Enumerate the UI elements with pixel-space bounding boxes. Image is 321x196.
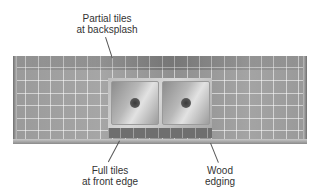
label-line: Partial tiles (72, 13, 142, 24)
front-edge-full-tile-row (108, 128, 212, 138)
backsplash-partial-tile-row (13, 56, 307, 70)
label-line: edging (200, 176, 240, 187)
wood-edging-strip (13, 139, 307, 144)
label-partial-tiles-backsplash: Partial tiles at backsplash (72, 13, 142, 35)
left-edge (13, 56, 17, 144)
label-line: at front edge (80, 176, 140, 187)
sink-bowl-right (162, 81, 210, 125)
label-full-tiles-front-edge: Full tiles at front edge (80, 165, 140, 187)
drain-icon (130, 98, 140, 108)
double-sink (108, 78, 212, 128)
label-line: Full tiles (80, 165, 140, 176)
leader-line-wood-edging (210, 143, 219, 163)
drain-icon (181, 98, 191, 108)
label-line: Wood (200, 165, 240, 176)
right-edge (303, 56, 307, 144)
sink-bowl-left (111, 81, 159, 125)
label-wood-edging: Wood edging (200, 165, 240, 187)
label-line: at backsplash (72, 24, 142, 35)
